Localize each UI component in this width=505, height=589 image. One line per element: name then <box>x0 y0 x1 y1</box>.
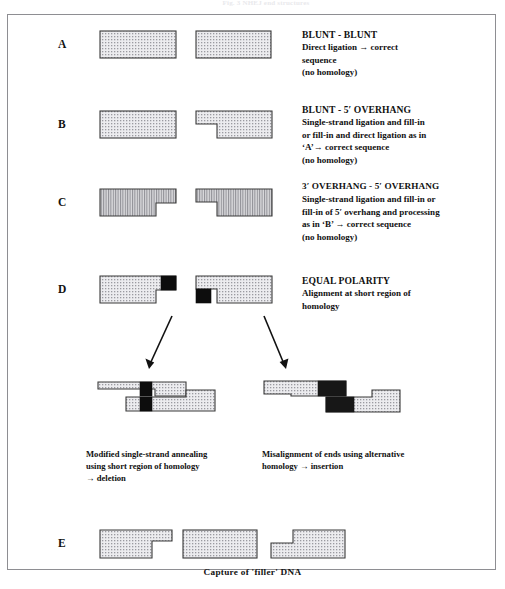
description-heading: BLUNT - BLUNT <box>302 28 498 41</box>
caption-line: → deletion <box>86 472 207 484</box>
description-line: homology <box>302 300 498 312</box>
caption-deletion: Modified single-strand annealing using s… <box>86 448 207 485</box>
description-line: (no homology) <box>302 154 498 166</box>
description-blunt-5-overhang: BLUNT - 5′ OVERHANG Single-strand ligati… <box>302 103 498 166</box>
description-line: (no homology) <box>302 66 498 78</box>
duplex-c-right <box>196 189 272 216</box>
description-body: Alignment at short region of homology <box>302 287 498 312</box>
description-line: as in ‘B’ → correct sequence <box>302 218 505 230</box>
homology-block-insertion-bottom <box>326 397 354 412</box>
description-body: Direct ligation → correct sequence (no h… <box>302 41 498 78</box>
arrow-to-insertion <box>264 316 288 369</box>
description-line: Alignment at short region of <box>302 287 498 299</box>
description-line: Direct ligation → correct <box>302 41 498 53</box>
duplex-e-left <box>100 530 172 558</box>
homology-block-d-left <box>161 276 176 290</box>
section-letter-d: D <box>58 283 66 295</box>
homology-block-d-right <box>196 289 211 303</box>
description-heading: BLUNT - 5′ OVERHANG <box>302 103 498 116</box>
description-heading: 3′ OVERHANG - 5′ OVERHANG <box>302 180 505 193</box>
homology-block-insertion-top <box>318 381 346 396</box>
description-body: Single-strand ligation and fill-in or fi… <box>302 193 505 243</box>
caption-insertion: Misalignment of ends using alternative h… <box>262 448 404 472</box>
duplex-e-middle <box>183 530 257 558</box>
duplex-b-left <box>100 111 176 138</box>
description-line: sequence <box>302 54 498 66</box>
duplex-a-right <box>196 31 271 58</box>
section-letter-e: E <box>58 537 66 549</box>
duplex-e-right <box>271 530 345 558</box>
description-line: Single-strand ligation and fill-in <box>302 116 498 128</box>
description-line: ‘A’→ correct sequence <box>302 141 498 153</box>
description-3-5-overhang: 3′ OVERHANG - 5′ OVERHANG Single-strand … <box>302 180 505 243</box>
description-line: or fill-in and direct ligation as in <box>302 129 498 141</box>
description-body: Single-strand ligation and fill-in or fi… <box>302 116 498 166</box>
caption-line: Modified single-strand annealing <box>86 448 207 460</box>
description-line: (no homology) <box>302 231 505 243</box>
caption-line: homology → insertion <box>262 460 404 472</box>
description-line: fill-in of 5′ overhang and processing <box>302 206 505 218</box>
section-letter-a: A <box>58 38 66 50</box>
figure-root: Fig. 3 NHEJ end structures <box>0 0 505 589</box>
caption-line: using short region of homology <box>86 460 207 472</box>
duplex-b-right <box>196 111 272 138</box>
caption-line: Misalignment of ends using alternative <box>262 448 404 460</box>
homology-block-deletion-top <box>140 382 152 396</box>
duplex-a-left <box>100 31 176 58</box>
arrow-to-deletion <box>145 316 172 369</box>
description-heading: EQUAL POLARITY <box>302 274 498 287</box>
description-line: Single-strand ligation and fill-in or <box>302 193 505 205</box>
description-equal-polarity: EQUAL POLARITY Alignment at short region… <box>302 274 498 312</box>
figure-bottom-caption: Capture of 'filler' DNA <box>0 567 505 577</box>
section-letter-c: C <box>58 196 66 208</box>
description-blunt-blunt: BLUNT - BLUNT Direct ligation → correct … <box>302 28 498 79</box>
duplex-c-left <box>100 189 176 216</box>
homology-block-deletion-bottom <box>140 397 152 411</box>
section-letter-b: B <box>58 118 66 130</box>
